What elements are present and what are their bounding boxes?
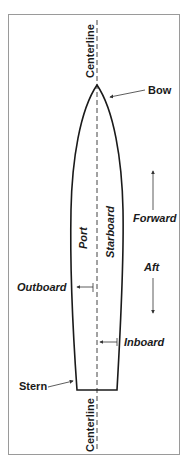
centerline-top-label: Centerline [84,24,96,78]
ship-diagram: Centerline Centerline Bow Stern Port Sta… [0,0,190,468]
starboard-label: Starboard [104,206,116,258]
bow-arrow [110,90,145,97]
stern-arrow [48,381,73,387]
port-label: Port [77,226,89,249]
stern-label: Stern [19,380,47,392]
aft-label: Aft [143,261,161,273]
inboard-label: Inboard [124,336,165,348]
forward-label: Forward [133,212,177,224]
bow-label: Bow [148,84,172,96]
outboard-label: Outboard [17,281,67,293]
centerline-bottom-label: Centerline [84,398,96,452]
